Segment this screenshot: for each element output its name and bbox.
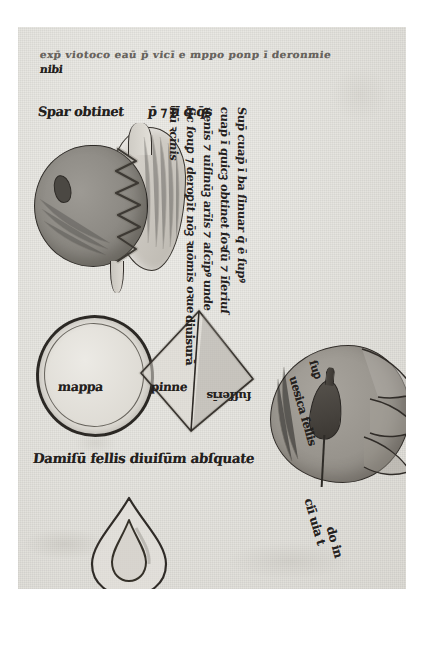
oval-label: mappa	[57, 381, 103, 394]
triangle-label-right: ſuſſerīs	[207, 389, 251, 401]
right-column-line-1: Sup̄ cuap̄ ī ba ſinuar q̄ ē ſupꝰ	[235, 106, 250, 283]
right-column-line-3: uenīs ⁊ uīſinūꝫ arīis ⁊ aſcīpꝰ unde	[201, 106, 216, 311]
manuscript-page: exp̄ viotoco eaū p̄ vicī e mppo ponp ī d…	[0, 0, 424, 645]
right-column-line-2: cuap̄ ī quicꝫ obtinet ſoꝛſū ⁊ īſeriuſ	[218, 106, 233, 314]
folio-parchment: exp̄ viotoco eaū p̄ vicī e mppo ponp ī d…	[18, 27, 406, 589]
liver-side-label-4: do in	[324, 525, 344, 559]
right-column-line-5: hū ꝛcīnis	[167, 106, 182, 161]
teardrop-outline	[74, 492, 184, 589]
figure-teardrop	[74, 492, 184, 589]
header-line-2: nibi	[39, 64, 63, 75]
right-column-line-4: ſic ſouꝑ ⁊ deroꝑīt nōꝫ ꝛuōmīs oꝛue	[184, 106, 199, 314]
gallbladder-caption: Damiſū fellis diuiſūm abſquate	[32, 452, 255, 466]
header-line-1: exp̄ viotoco eaū p̄ vicī e mppo ponp ī d…	[39, 49, 331, 59]
triangle-label-left: pinne	[150, 381, 187, 393]
right-text-column: Sup̄ cuap̄ ī ba ſinuar q̄ ē ſupꝰ cuap̄ ī…	[100, 107, 250, 377]
figure-liver-gallbladder: uesica fellis	[266, 319, 406, 509]
